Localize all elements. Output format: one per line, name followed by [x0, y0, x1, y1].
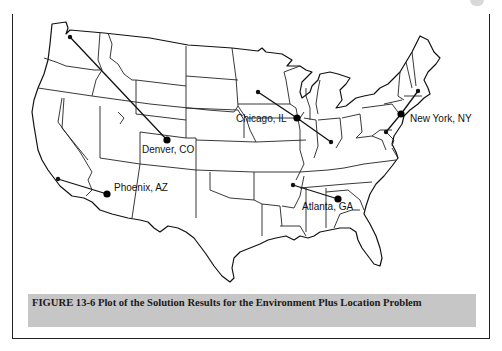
label-chicago: Chicago, IL	[236, 113, 287, 124]
demand-point	[416, 89, 420, 93]
label-new-york: New York, NY	[410, 113, 472, 124]
demand-point	[329, 140, 333, 144]
demand-point	[256, 90, 260, 94]
demand-point	[291, 183, 295, 187]
facility-phoenix	[103, 190, 110, 197]
label-atlanta: Atlanta, GA	[302, 201, 353, 212]
facility-denver	[163, 136, 170, 143]
demand-point	[384, 130, 388, 134]
demand-point	[56, 177, 60, 181]
label-phoenix: Phoenix, AZ	[114, 182, 168, 193]
label-denver: Denver, CO	[142, 144, 194, 155]
demand-point	[68, 35, 72, 39]
facility-new-york	[397, 110, 404, 117]
figure-caption: FIGURE 13-6 Plot of the Solution Results…	[28, 294, 476, 327]
facility-chicago	[293, 114, 300, 121]
